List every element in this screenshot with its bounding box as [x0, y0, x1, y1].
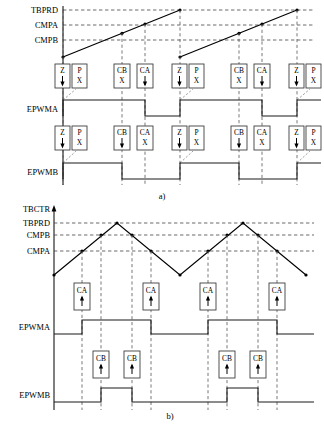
event-box[interactable]: Z [172, 64, 187, 88]
panel-b-ylabel-tbprd: TBPRD [23, 219, 50, 228]
panel-b: TBCTR TBPRD CMPB CMPA [19, 205, 314, 421]
event-box[interactable]: CB X [231, 64, 247, 88]
panel-a-ylabel-cmpa: CMPA [35, 21, 58, 30]
panel-a-signal-label-epwma: EPWMA [27, 105, 58, 114]
panel-b-eventbox-row-epwma: CA CA CA CA [74, 283, 285, 310]
event-box[interactable]: CA [200, 283, 216, 310]
event-box-top-label: CA [140, 66, 151, 75]
pwm-timing-figure: TBPRD CMPA CMPB [0, 0, 324, 424]
event-box[interactable]: CA X [137, 126, 153, 150]
event-box[interactable]: P X [72, 64, 87, 88]
panel-a-connectors-epwmb [63, 151, 310, 163]
panel-a-ylabel-tbprd: TBPRD [31, 6, 58, 15]
event-box-top-label: Z [60, 66, 65, 75]
event-box-top-label: CB [117, 128, 127, 137]
panel-b-ylabel-cmpa: CMPA [27, 247, 50, 256]
event-box-top-label: CA [77, 286, 88, 295]
panel-a-eventbox-row-epwma: Z P X CB X CA [55, 64, 321, 88]
event-box[interactable]: P X [72, 126, 87, 150]
event-box[interactable]: CA [269, 283, 285, 310]
panel-b-signal-label-epwma: EPWMA [19, 323, 50, 332]
event-box-top-label: Z [177, 66, 182, 75]
event-box[interactable]: CB [250, 351, 266, 378]
event-box[interactable]: Z [289, 64, 304, 88]
event-box[interactable]: CA [137, 64, 153, 88]
panel-a-connectors-epwma [63, 89, 310, 100]
event-box[interactable]: CA [254, 64, 270, 88]
panel-a-epwma-waveform [63, 100, 321, 116]
event-box-top-label: CB [96, 354, 106, 363]
event-box[interactable]: P X [189, 126, 204, 150]
event-box-bottom-label: X [142, 138, 148, 147]
panel-b-signal-label-epwmb: EPWMB [19, 391, 50, 400]
panel-a-level-gridlines [63, 10, 314, 40]
event-box[interactable]: Z [289, 126, 304, 150]
event-box-top-label: CA [257, 66, 268, 75]
event-box[interactable]: P X [306, 126, 321, 150]
event-box-bottom-label: X [236, 76, 242, 85]
event-box-bottom-label: X [311, 76, 317, 85]
event-box[interactable]: CB X [114, 64, 130, 88]
event-box-top-label: CA [146, 286, 157, 295]
panel-a-caption: a) [159, 191, 166, 201]
event-box-top-label: CB [253, 354, 263, 363]
panel-a-epwmb-waveform [63, 163, 321, 179]
panel-a-eventbox-row-epwmb: Z P X CB [55, 126, 321, 150]
event-box-bottom-label: X [311, 138, 317, 147]
event-box[interactable]: CB [219, 351, 235, 378]
event-box-top-label: CA [257, 128, 268, 137]
timing-diagram-svg: TBPRD CMPA CMPB [0, 0, 324, 424]
event-box-top-label: Z [177, 128, 182, 137]
event-box-top-label: CA [272, 286, 283, 295]
event-box-bottom-label: X [119, 76, 125, 85]
event-box[interactable]: CA [74, 283, 90, 310]
axis-arrow-icon [52, 205, 57, 212]
panel-a-signal-label-epwmb: EPWMB [27, 168, 58, 177]
event-box-top-label: P [77, 66, 81, 75]
event-box-top-label: P [194, 128, 198, 137]
event-box[interactable]: P X [306, 64, 321, 88]
event-box-top-label: CA [140, 128, 151, 137]
event-box-bottom-label: X [194, 138, 200, 147]
event-box[interactable]: Z [55, 64, 70, 88]
event-box-bottom-label: X [259, 138, 265, 147]
event-box[interactable]: CA X [254, 126, 270, 150]
panel-b-epwma-waveform [54, 320, 314, 334]
event-box[interactable]: Z [55, 126, 70, 150]
event-box-top-label: CB [234, 66, 244, 75]
event-box-bottom-label: X [77, 76, 83, 85]
panel-a-event-dashlines [63, 10, 297, 185]
event-box-bottom-label: X [194, 76, 200, 85]
event-box[interactable]: CA [143, 283, 159, 310]
event-box-top-label: P [77, 128, 81, 137]
event-box-top-label: CB [222, 354, 232, 363]
panel-b-tbctr-triangle [52, 221, 307, 276]
event-box-top-label: CB [127, 354, 137, 363]
panel-b-epwmb-waveform [54, 388, 314, 402]
event-box[interactable]: CB [231, 126, 247, 150]
event-box[interactable]: CB [114, 126, 130, 150]
event-box-bottom-label: X [77, 138, 83, 147]
event-box-top-label: CA [203, 286, 214, 295]
event-box-top-label: Z [294, 66, 299, 75]
panel-b-level-gridlines [54, 223, 314, 251]
panel-b-axis-name-tbctr: TBCTR [23, 205, 50, 214]
panel-b-caption: b) [166, 411, 173, 421]
event-box[interactable]: Z [172, 126, 187, 150]
event-box[interactable]: CB [124, 351, 140, 378]
event-box-top-label: CB [234, 128, 244, 137]
event-box-top-label: P [311, 66, 315, 75]
panel-b-event-dashlines [82, 235, 277, 410]
event-box-top-label: CB [117, 66, 127, 75]
event-box-top-label: P [311, 128, 315, 137]
event-box[interactable]: CB [93, 351, 109, 378]
event-box-top-label: Z [294, 128, 299, 137]
panel-a: TBPRD CMPA CMPB [27, 6, 321, 201]
event-box[interactable]: P X [189, 64, 204, 88]
event-box-top-label: Z [60, 128, 65, 137]
event-box-top-label: P [194, 66, 198, 75]
panel-a-ylabel-cmpb: CMPB [35, 36, 59, 45]
panel-b-eventbox-row-epwmb: CB CB CB CB [93, 351, 266, 378]
panel-b-ylabel-cmpb: CMPB [27, 231, 51, 240]
